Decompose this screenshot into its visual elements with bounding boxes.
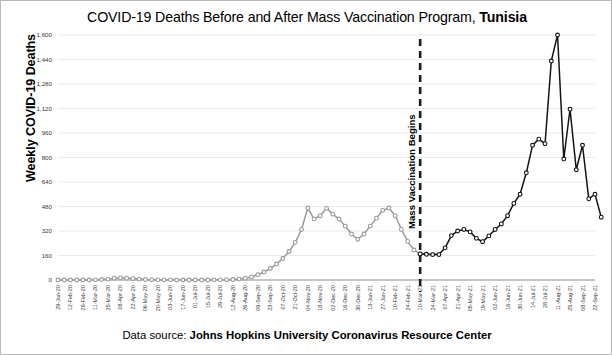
data-point [225, 278, 229, 282]
x-tick-label: 08-Apr-20 [117, 285, 123, 309]
data-point [443, 246, 447, 250]
x-tick-label: 24-Mar-21 [430, 285, 436, 310]
x-tick-label: 02-Dec-20 [330, 285, 336, 311]
data-point [493, 228, 497, 232]
data-point [200, 278, 204, 282]
x-tick-label: 29-Jul-20 [217, 285, 223, 308]
x-tick-label: 05-May-21 [467, 285, 473, 311]
x-tick-label: 25-Mar-20 [105, 285, 111, 310]
data-point [375, 216, 379, 220]
data-point [556, 33, 560, 37]
data-point [81, 278, 85, 282]
x-tick-label: 30-Dec-20 [355, 285, 361, 311]
x-tick-label: 21-Apr-21 [455, 285, 461, 309]
data-point [599, 215, 603, 219]
y-tick-label: 320 [42, 227, 53, 234]
y-tick-label: 960 [42, 129, 53, 136]
x-tick-label: 12-Feb-20 [67, 285, 73, 310]
x-tick-label: 16-Jun-21 [505, 285, 511, 310]
x-tick-label: 02-Jun-21 [492, 285, 498, 310]
data-point [268, 267, 272, 271]
gridlines [58, 35, 595, 280]
x-tick-label: 26-Feb-20 [80, 285, 86, 310]
data-point [587, 197, 591, 201]
data-point [293, 240, 297, 244]
data-point [481, 240, 485, 244]
data-point [112, 276, 116, 280]
data-point [212, 278, 216, 282]
data-point [531, 143, 535, 147]
data-point [56, 278, 60, 282]
data-point [94, 278, 98, 282]
data-point [337, 217, 341, 221]
data-point [456, 229, 460, 233]
data-point [150, 278, 154, 282]
x-tick-label: 06-May-20 [142, 285, 148, 311]
source-note: Data source: Johns Hopkins University Co… [1, 329, 612, 341]
x-tick-label: 27-Jan-21 [380, 285, 386, 310]
data-point [412, 248, 416, 252]
data-point [318, 214, 322, 218]
data-point [393, 214, 397, 218]
x-tick-label: 12-Aug-20 [230, 285, 236, 311]
data-point [106, 277, 110, 281]
x-tick-label: 20-May-20 [155, 285, 161, 311]
chart-figure: COVID-19 Deaths Before and After Mass Va… [0, 0, 612, 355]
data-point [431, 253, 435, 257]
x-axis-ticks: 29-Jan-2012-Feb-2026-Feb-2011-Mar-2025-M… [55, 285, 598, 311]
data-point [144, 278, 148, 282]
x-tick-label: 24-Feb-21 [405, 285, 411, 310]
data-point [237, 277, 241, 281]
data-point [506, 214, 510, 218]
data-point [262, 270, 266, 274]
y-tick-label: 160 [42, 252, 53, 259]
data-point [131, 277, 135, 281]
data-point [125, 276, 129, 280]
data-point [568, 107, 572, 111]
x-tick-label: 10-Feb-21 [392, 285, 398, 310]
data-point [100, 278, 104, 282]
data-point [187, 278, 191, 282]
data-point [169, 278, 173, 282]
x-tick-label: 28-Jul-21 [542, 285, 548, 308]
data-point [518, 192, 522, 196]
data-point [206, 278, 210, 282]
data-point [137, 277, 141, 281]
data-point [381, 208, 385, 212]
data-point [193, 278, 197, 282]
data-point [287, 250, 291, 254]
x-tick-label: 26-Aug-20 [242, 285, 248, 311]
data-point [69, 278, 73, 282]
x-tick-label: 08-Sep-21 [580, 285, 586, 311]
data-point [406, 240, 410, 244]
data-point [162, 278, 166, 282]
data-point [231, 278, 235, 282]
data-point [574, 168, 578, 172]
y-tick-label: 1,120 [37, 105, 53, 112]
data-point [218, 278, 222, 282]
source-name: Johns Hopkins University Coronavirus Res… [190, 329, 492, 341]
data-point [250, 275, 254, 279]
data-point [256, 273, 260, 277]
x-tick-label: 07-Apr-21 [442, 285, 448, 309]
series-line-after [420, 35, 601, 255]
x-tick-label: 10-Mar-21 [417, 285, 423, 310]
x-tick-label: 21-Oct-20 [292, 285, 298, 309]
data-point [468, 230, 472, 234]
x-tick-label: 18-Nov-20 [317, 285, 323, 311]
data-point [350, 232, 354, 236]
data-point [593, 192, 597, 196]
x-tick-label: 07-Oct-20 [280, 285, 286, 309]
data-point [306, 206, 310, 210]
data-point [300, 228, 304, 232]
data-point [437, 253, 441, 257]
x-tick-label: 14-Jul-21 [530, 285, 536, 308]
data-point [562, 157, 566, 161]
x-tick-label: 11-Mar-20 [92, 285, 98, 310]
x-tick-label: 23-Sep-20 [267, 285, 273, 311]
data-point [243, 276, 247, 280]
vaccination-annotation-label: Mass Vaccination Begins [406, 114, 417, 229]
x-tick-label: 22-Sep-21 [592, 285, 598, 311]
x-tick-label: 11-Aug-21 [555, 285, 561, 310]
data-point [425, 252, 429, 256]
